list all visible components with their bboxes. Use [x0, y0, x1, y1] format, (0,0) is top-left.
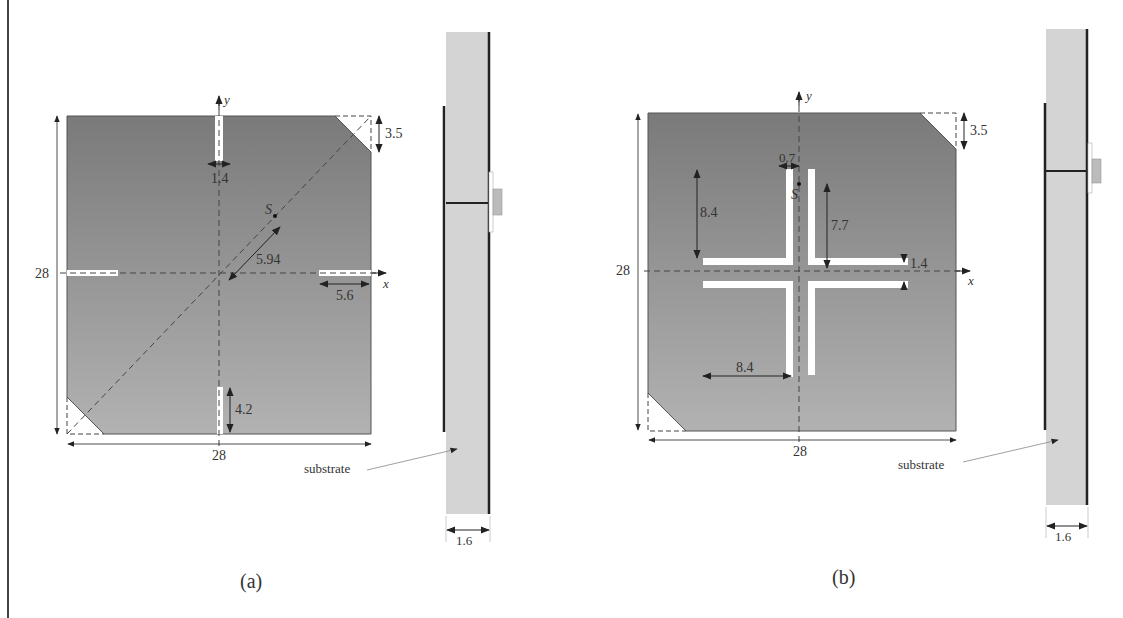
slot-bottom-a	[217, 387, 223, 434]
width-label-a: 28	[212, 448, 226, 463]
connector-outline-a	[489, 172, 493, 232]
horizontal-arm-label-b: 8.4	[736, 360, 754, 375]
feed-point-a	[273, 214, 277, 218]
thickness-label-b: 1.6	[1055, 529, 1072, 544]
inner-arm-label-b: 7.7	[831, 218, 849, 233]
connector-outline-b	[1088, 143, 1092, 193]
slot-width-label-a: 1.4	[211, 171, 229, 186]
feed-label-b: S	[791, 187, 798, 202]
substrate-a	[446, 32, 490, 514]
right-slot-label-a: 5.6	[336, 288, 354, 303]
substrate-label-a: substrate	[304, 461, 350, 476]
patch-b	[648, 113, 956, 431]
connector-a	[493, 189, 502, 215]
vertical-arm-label-b: 8.4	[700, 205, 718, 220]
height-label-b: 28	[616, 263, 630, 278]
substrate-label-b: substrate	[898, 457, 944, 472]
corner-cut-label-a: 3.5	[385, 126, 403, 141]
axis-y-label-b: y	[804, 88, 812, 103]
panel-b: y x S 0.7 8.4 7.7 1.4 8.4 3.5	[616, 29, 1101, 544]
panel-a: y x S 5.94 1.4 4.2 5.6 3.5 28	[35, 32, 502, 548]
caption-a: (a)	[240, 570, 262, 593]
corner-cut-label-b: 3.5	[970, 123, 988, 138]
slot-spacing-label-b: 1.4	[910, 256, 928, 271]
feed-label-a: S	[265, 202, 272, 217]
axis-y-label-a: y	[222, 92, 230, 107]
slot-gap-label-b: 0.7	[779, 150, 796, 165]
width-label-b: 28	[793, 444, 807, 459]
axis-x-label-a: x	[382, 276, 389, 291]
substrate-b	[1046, 29, 1087, 505]
connector-b	[1092, 159, 1101, 183]
feed-offset-label-a: 5.94	[256, 252, 281, 267]
caption-b: (b)	[832, 566, 855, 589]
feed-point-b	[797, 182, 801, 186]
top-view-a: y x S 5.94 1.4 4.2 5.6 3.5 28	[35, 92, 403, 463]
antenna-figure: y x S 5.94 1.4 4.2 5.6 3.5 28	[0, 0, 1123, 618]
bottom-slot-label-a: 4.2	[235, 402, 253, 417]
top-view-b: y x S 0.7 8.4 7.7 1.4 8.4 3.5	[616, 88, 988, 459]
height-label-a: 28	[35, 266, 49, 281]
axis-x-label-b: x	[967, 273, 974, 288]
thickness-label-a: 1.6	[456, 533, 473, 548]
